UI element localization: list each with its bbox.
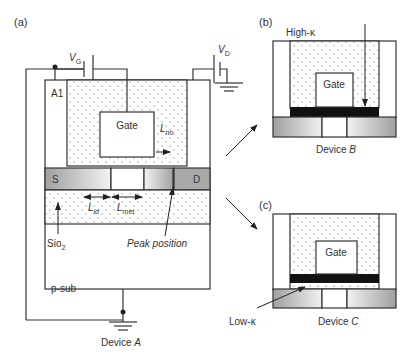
gate-a bbox=[100, 112, 154, 157]
gate-a-label: Gate bbox=[116, 120, 138, 131]
source-region-b bbox=[273, 117, 322, 137]
arrow-to-c bbox=[226, 198, 257, 229]
channel-b bbox=[322, 117, 347, 137]
peak-position-label: Peak position bbox=[127, 238, 187, 249]
ground-icon-vd bbox=[215, 83, 243, 91]
drain-label: D bbox=[193, 174, 200, 185]
panel-a-label: (a) bbox=[14, 16, 27, 28]
gate-b-label: Gate bbox=[323, 79, 345, 90]
drain-region-c bbox=[347, 289, 396, 308]
high-k-label: High-κ bbox=[286, 27, 316, 38]
device-c-caption: Device C bbox=[318, 316, 359, 327]
drain-region-b bbox=[347, 117, 396, 137]
vd-label: VD bbox=[218, 44, 230, 57]
drain-region bbox=[174, 168, 210, 190]
device-b-caption: Device B bbox=[316, 144, 356, 155]
panel-b: (b) High-κ Gate Device B bbox=[259, 16, 396, 155]
vg-label: VG bbox=[69, 52, 81, 65]
psub-label: p-sub bbox=[51, 283, 76, 294]
channel-segment bbox=[111, 168, 144, 190]
junction-dot bbox=[121, 310, 126, 315]
low-k-label: Low-κ bbox=[229, 316, 257, 327]
source-region-c bbox=[273, 289, 322, 308]
panel-c: (c) Gate Low-κ Device C bbox=[229, 199, 396, 327]
gate-dielectric-c bbox=[290, 274, 379, 283]
panel-c-label: (c) bbox=[259, 199, 272, 211]
gate-c-label: Gate bbox=[325, 247, 347, 258]
panel-b-label: (b) bbox=[259, 16, 272, 28]
ground-icon-substrate bbox=[109, 322, 137, 330]
sio2-layer bbox=[45, 190, 210, 224]
device-a-caption: Device A bbox=[101, 337, 141, 348]
mosfet-diagram: (a) VG VD bbox=[0, 0, 417, 361]
high-k-dielectric bbox=[290, 107, 379, 117]
a1-label: A1 bbox=[51, 88, 64, 99]
vg-battery-icon bbox=[55, 55, 127, 83]
vd-battery-icon bbox=[193, 55, 227, 83]
source-label: S bbox=[52, 174, 59, 185]
channel-c bbox=[322, 289, 347, 308]
panel-a: (a) VG VD bbox=[14, 16, 243, 348]
arrow-to-b bbox=[226, 125, 257, 156]
channel-segment bbox=[144, 168, 174, 190]
